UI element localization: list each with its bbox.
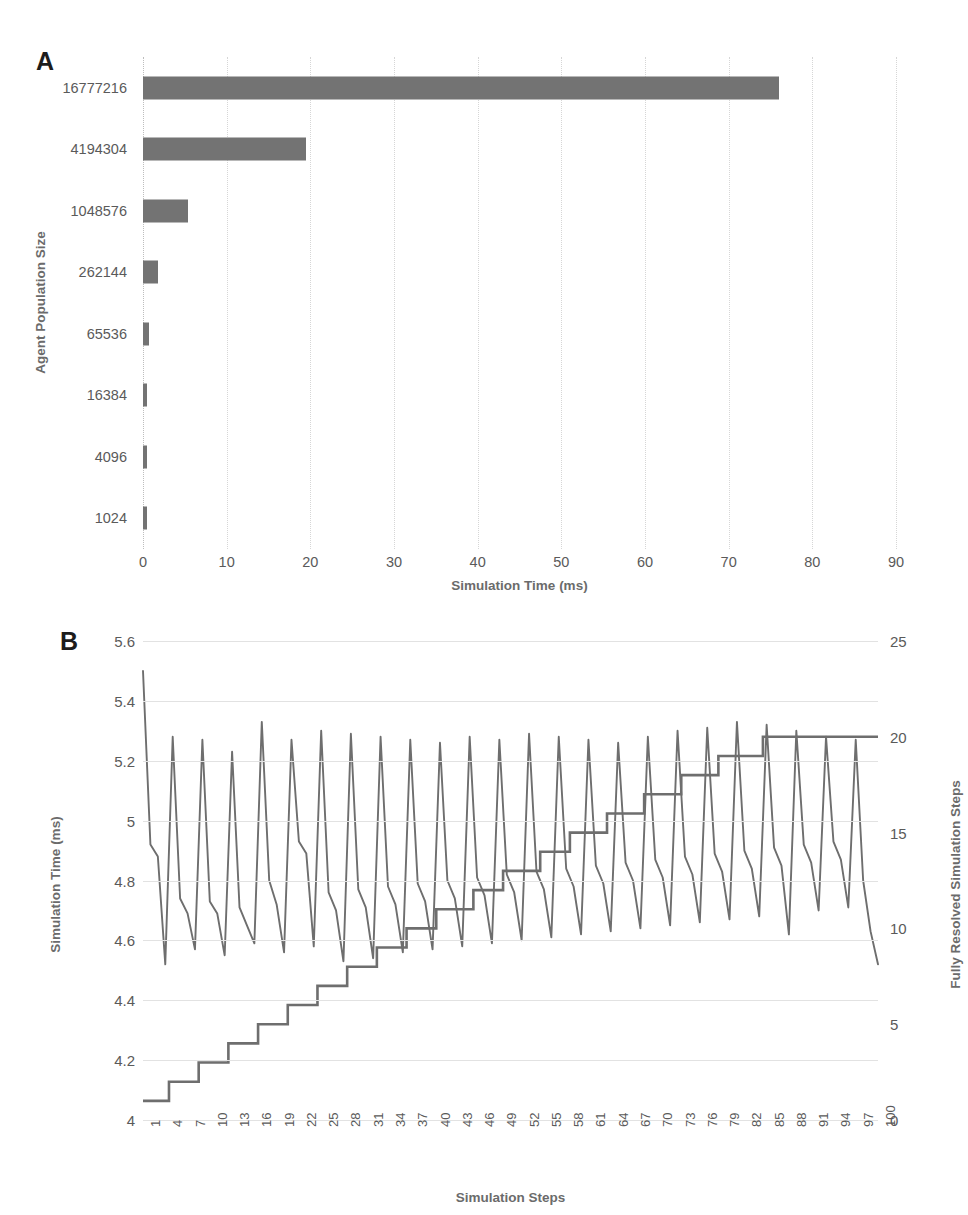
panel-b-x-tick-label: 61 <box>593 1113 608 1127</box>
panel-b-gridline <box>143 761 878 763</box>
panel-a-gridline <box>896 57 898 549</box>
panel-b-x-axis-title: Simulation Steps <box>143 1190 878 1205</box>
panel-b-x-tick-label: 94 <box>838 1113 853 1127</box>
panel-a-gridline <box>143 57 145 549</box>
panel-b-x-tick-label: 13 <box>237 1113 252 1127</box>
panel-b-x-tick-label: 91 <box>816 1113 831 1127</box>
panel-b-left-y-tick-label: 5.4 <box>60 692 135 709</box>
panel-b-x-tick-label: 4 <box>170 1120 185 1127</box>
panel-b-right-y-tick-label: 10 <box>890 920 930 937</box>
panel-a-label: A <box>36 47 54 76</box>
panel-b-gridline <box>143 1000 878 1002</box>
panel-a-x-tick-label: 60 <box>615 554 675 570</box>
panel-b-gridline <box>143 701 878 703</box>
panel-b-left-y-tick-label: 4.6 <box>60 932 135 949</box>
panel-a-x-tick-label: 10 <box>197 554 257 570</box>
panel-a-gridline <box>478 57 480 549</box>
table-row <box>143 507 147 530</box>
panel-a-gridline <box>729 57 731 549</box>
panel-b-x-tick-label: 7 <box>193 1120 208 1127</box>
panel-b-x-tick-label: 43 <box>460 1113 475 1127</box>
table-row <box>143 199 188 222</box>
panel-a-plot-area: 1677721641943041048576262144655361638440… <box>143 57 896 549</box>
panel-b-x-tick-label: 16 <box>259 1113 274 1127</box>
panel-a-y-tick-label: 262144 <box>7 264 127 280</box>
table-row <box>143 76 779 99</box>
panel-b-gridline <box>143 881 878 883</box>
panel-b-x-tick-label: 100 <box>883 1105 898 1127</box>
panel-b-left-y-tick-label: 5 <box>60 812 135 829</box>
fully-resolved-steps-line <box>143 737 878 1101</box>
panel-b-left-y-tick-label: 5.2 <box>60 752 135 769</box>
panel-b-x-tick-label: 88 <box>794 1113 809 1127</box>
panel-a-y-tick-label: 16384 <box>7 387 127 403</box>
panel-b-gridline <box>143 821 878 823</box>
panel-a-x-tick-label: 20 <box>280 554 340 570</box>
panel-b-x-tick-label: 58 <box>571 1113 586 1127</box>
panel-b-left-y-tick-label: 4 <box>60 1112 135 1129</box>
panel-a-gridline <box>227 57 229 549</box>
panel-b-gridline <box>143 940 878 942</box>
figure-container: A Agent Population Size 1677721641943041… <box>0 0 968 1215</box>
panel-b-x-tick-label: 37 <box>415 1113 430 1127</box>
panel-b-x-tick-label: 34 <box>393 1113 408 1127</box>
panel-b-x-tick-label: 28 <box>348 1113 363 1127</box>
panel-b-gridline <box>143 641 878 643</box>
panel-a-y-tick-label: 1048576 <box>7 203 127 219</box>
panel-b-line-chart: B Simulation Time (ms) Fully Resolved Si… <box>0 612 968 1215</box>
table-row <box>143 322 149 345</box>
panel-a-y-tick-label: 4096 <box>7 449 127 465</box>
panel-a-gridline <box>561 57 563 549</box>
panel-b-x-tick-label: 10 <box>215 1113 230 1127</box>
panel-b-right-y-tick-label: 5 <box>890 1016 930 1033</box>
panel-a-gridline <box>645 57 647 549</box>
panel-a-x-tick-label: 40 <box>448 554 508 570</box>
panel-b-x-tick-label: 19 <box>282 1113 297 1127</box>
panel-a-x-tick-label: 90 <box>866 554 926 570</box>
panel-a-bar-chart: A Agent Population Size 1677721641943041… <box>0 0 968 615</box>
panel-b-x-tick-label: 55 <box>549 1113 564 1127</box>
table-row <box>143 261 158 284</box>
panel-b-gridline <box>143 1060 878 1062</box>
panel-a-gridline <box>812 57 814 549</box>
panel-b-x-tick-label: 70 <box>660 1113 675 1127</box>
panel-a-x-tick-label: 80 <box>782 554 842 570</box>
panel-b-x-tick-label: 22 <box>304 1113 319 1127</box>
panel-b-right-y-tick-label: 20 <box>890 728 930 745</box>
panel-a-gridline <box>310 57 312 549</box>
panel-b-left-y-tick-label: 4.4 <box>60 992 135 1009</box>
panel-b-x-tick-label: 1 <box>148 1120 163 1127</box>
table-row <box>143 384 147 407</box>
panel-b-right-y-axis-title: Fully Resolved Simulation Steps <box>948 740 963 1030</box>
panel-a-gridline <box>394 57 396 549</box>
panel-b-left-y-tick-label: 4.8 <box>60 872 135 889</box>
panel-a-y-tick-label: 16777216 <box>7 80 127 96</box>
panel-b-left-y-tick-label: 4.2 <box>60 1052 135 1069</box>
panel-b-left-y-tick-label: 5.6 <box>60 633 135 650</box>
panel-b-x-tick-label: 76 <box>705 1113 720 1127</box>
panel-a-x-tick-label: 0 <box>113 554 173 570</box>
panel-b-x-tick-label: 73 <box>683 1113 698 1127</box>
panel-b-plot-area <box>143 641 878 1120</box>
panel-b-x-tick-label: 85 <box>772 1113 787 1127</box>
panel-a-x-axis-title: Simulation Time (ms) <box>143 578 896 593</box>
panel-b-x-tick-label: 67 <box>638 1113 653 1127</box>
panel-b-x-tick-label: 49 <box>504 1113 519 1127</box>
panel-b-x-tick-label: 52 <box>527 1113 542 1127</box>
panel-b-x-tick-label: 64 <box>616 1113 631 1127</box>
panel-b-x-tick-label: 40 <box>438 1113 453 1127</box>
panel-a-x-tick-label: 70 <box>699 554 759 570</box>
panel-a-y-tick-label: 4194304 <box>7 141 127 157</box>
panel-b-x-tick-label: 25 <box>326 1113 341 1127</box>
panel-a-y-tick-label: 1024 <box>7 510 127 526</box>
panel-a-y-tick-label: 65536 <box>7 326 127 342</box>
panel-b-right-y-tick-label: 25 <box>890 633 930 650</box>
table-row <box>143 138 306 161</box>
panel-b-right-y-tick-label: 15 <box>890 824 930 841</box>
panel-b-x-tick-label: 46 <box>482 1113 497 1127</box>
table-row <box>143 445 147 468</box>
panel-b-x-tick-label: 79 <box>727 1113 742 1127</box>
panel-a-y-axis-title: Agent Population Size <box>33 203 48 403</box>
panel-b-x-tick-label: 31 <box>371 1113 386 1127</box>
panel-a-x-tick-label: 30 <box>364 554 424 570</box>
